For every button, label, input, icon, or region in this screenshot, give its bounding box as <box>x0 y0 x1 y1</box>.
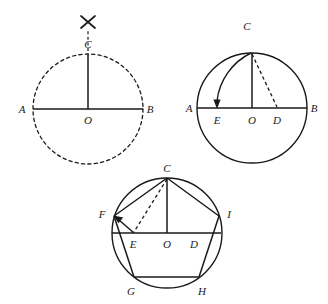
figure-page: A B C O A B C E O D <box>0 0 328 304</box>
point-label-h-panel-3: H <box>197 285 207 297</box>
point-label-d-panel-3: D <box>189 238 198 250</box>
point-label-g-panel-3: G <box>127 285 135 297</box>
geometry-figure-canvas: A B C O A B C E O D <box>0 0 328 304</box>
arc-c-to-e-panel-2 <box>217 53 251 101</box>
panel-2-step-2: A B C E O D <box>185 20 318 163</box>
point-label-f-panel-3: F <box>98 208 106 220</box>
point-label-o-panel-2: O <box>248 114 256 126</box>
point-label-b-panel-1: B <box>147 103 154 115</box>
point-label-c-panel-2: C <box>243 20 251 32</box>
point-label-c-panel-3: C <box>163 162 171 174</box>
point-label-o-panel-3: O <box>163 238 171 250</box>
compass-cross-mark-icon <box>81 16 95 28</box>
point-label-c-panel-1: C <box>84 38 92 50</box>
segment-cd-dashed-panel-2 <box>252 54 277 107</box>
panel-1-step-1: A B C O <box>18 16 154 164</box>
point-label-e-panel-2: E <box>213 114 221 126</box>
point-label-o-panel-1: O <box>84 114 92 126</box>
segment-ce-dashed-panel-3 <box>134 179 167 232</box>
point-label-b-panel-2: B <box>311 102 318 114</box>
point-label-d-panel-2: D <box>272 114 281 126</box>
point-label-a-panel-2: A <box>185 102 193 114</box>
point-label-e-panel-3: E <box>129 238 137 250</box>
panel-3-step-3: C F I E O D G H <box>98 162 233 297</box>
point-label-i-panel-3: I <box>226 208 232 220</box>
pentagon-side-ci <box>167 178 219 216</box>
arrow-e-to-f-shaft-panel-3 <box>119 220 134 233</box>
point-label-a-panel-1: A <box>18 103 26 115</box>
pentagon-side-cf <box>114 178 167 216</box>
